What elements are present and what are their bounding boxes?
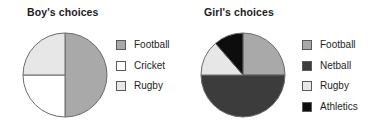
chart-title-girls: Girl's choices [204,6,274,18]
legend-item: Cricket [116,56,170,77]
pie-slice-cricket [23,75,65,117]
pie-charts-figure: Boy's choices Football Cricket [0,0,378,132]
legend-boys: Football Cricket Rugby [116,35,170,97]
legend-swatch-athletics [302,102,312,112]
pie-chart-boys [22,32,108,122]
legend-label-cricket: Cricket [134,61,165,71]
legend-label-football: Football [320,40,356,50]
legend-item: Rugby [302,76,358,97]
chart-title-boys: Boy's choices [27,6,99,18]
pie-svg-girls [200,32,286,118]
legend-swatch-rugby [116,81,126,91]
legend-swatch-cricket [116,61,126,71]
legend-swatch-football [302,40,312,50]
legend-swatch-rugby [302,81,312,91]
pie-slice-football [65,33,107,117]
pie-slice-rugby [23,33,65,75]
pie-chart-girls [200,32,286,122]
legend-swatch-netball [302,61,312,71]
legend-label-football: Football [134,40,170,50]
pie-slice-netball [201,75,285,117]
legend-item: Football [302,35,358,56]
legend-item: Rugby [116,76,170,97]
pie-svg-boys [22,32,108,118]
legend-item: Netball [302,56,358,77]
legend-label-athletics: Athletics [320,102,358,112]
chart-panel-boys-choices: Boy's choices Football Cricket [0,0,190,132]
legend-item: Football [116,35,170,56]
pie-slice-football [243,33,285,75]
legend-item: Athletics [302,97,358,118]
legend-label-rugby: Rugby [134,81,163,91]
legend-label-rugby: Rugby [320,81,349,91]
legend-girls: Football Netball Rugby Athletics [302,35,358,117]
legend-swatch-football [116,40,126,50]
chart-panel-girls-choices: Girl's choices Football Netball [190,0,378,132]
legend-label-netball: Netball [320,61,351,71]
